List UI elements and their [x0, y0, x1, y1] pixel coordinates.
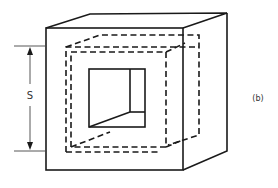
flux-path-inner: [71, 43, 185, 147]
window-diagonal-edge: [89, 112, 130, 127]
top-face: [46, 13, 227, 28]
panel-label: (b): [252, 94, 263, 103]
dimension-s: S: [14, 46, 45, 151]
flux-path-outer-front: [66, 47, 199, 152]
right-face: [183, 13, 227, 170]
arrow-down-icon: [27, 142, 33, 150]
flux-path-inner-loop: [71, 52, 166, 147]
flux-path-inner-connector-bottom: [71, 132, 110, 147]
arrow-up-icon: [27, 47, 33, 55]
window-opening: [89, 69, 145, 127]
core-diagram: S (b): [0, 0, 278, 188]
dimension-label: S: [27, 90, 33, 101]
center-window: [89, 69, 145, 127]
